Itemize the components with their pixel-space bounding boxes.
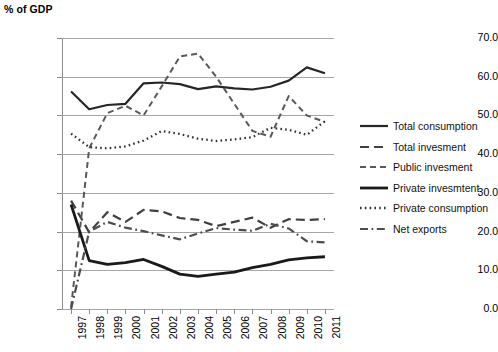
legend-item[interactable]: Private invesmtent: [360, 178, 498, 199]
legend-item[interactable]: Private consumption: [360, 198, 498, 219]
x-tick-label: 1999: [112, 316, 124, 339]
x-tick-label: 1997: [76, 316, 88, 339]
series-line: [71, 121, 325, 148]
legend-swatch-icon: [360, 141, 388, 153]
y-tick-label: 10.0: [444, 263, 498, 275]
x-tick-label: 2007: [257, 316, 269, 339]
legend-swatch-icon: [360, 161, 388, 173]
y-tick-label: 0.0: [444, 302, 498, 314]
x-tick-label: 1998: [94, 316, 106, 339]
series-line: [71, 53, 325, 307]
x-tick-label: 2010: [312, 316, 324, 339]
x-tick-label: 2008: [276, 316, 288, 339]
legend-item[interactable]: Net exports: [360, 219, 498, 240]
x-tick-label: 2006: [239, 316, 251, 339]
legend-item-label: Public invesment: [393, 162, 472, 173]
legend-item[interactable]: Total consumption: [360, 116, 498, 137]
legend-item-label: Private invesmtent: [393, 183, 479, 194]
x-tick-label: 2011: [330, 316, 342, 339]
chart-legend: Total consumptionTotal invesmentPublic i…: [360, 116, 498, 239]
legend-item[interactable]: Public invesment: [360, 157, 498, 178]
y-axis-title: % of GDP: [4, 3, 53, 15]
legend-swatch-icon: [360, 182, 388, 194]
chart-canvas: % of GDP 0.010.020.030.040.050.060.070.0…: [0, 0, 498, 352]
series-line: [71, 201, 325, 233]
legend-item-label: Total invesment: [393, 142, 466, 153]
legend-item-label: Net exports: [393, 224, 447, 235]
y-tick-label: 60.0: [444, 70, 498, 82]
series-layer: [62, 38, 334, 310]
legend-item-label: Total consumption: [393, 121, 478, 132]
legend-item[interactable]: Total invesment: [360, 137, 498, 158]
legend-swatch-icon: [360, 120, 388, 132]
legend-item-label: Private consumption: [393, 203, 488, 214]
x-tick-label: 2004: [203, 316, 215, 339]
x-tick-label: 2003: [185, 316, 197, 339]
y-tick-label: 70.0: [444, 31, 498, 43]
x-tick-label: 2005: [221, 316, 233, 339]
x-tick-label: 2009: [294, 316, 306, 339]
legend-swatch-icon: [360, 223, 388, 235]
legend-swatch-icon: [360, 202, 388, 214]
x-tick-label: 2002: [167, 316, 179, 339]
x-tick-label: 2001: [149, 316, 161, 339]
series-line: [71, 204, 325, 276]
series-line: [71, 67, 325, 109]
x-tick-label: 2000: [130, 316, 142, 339]
